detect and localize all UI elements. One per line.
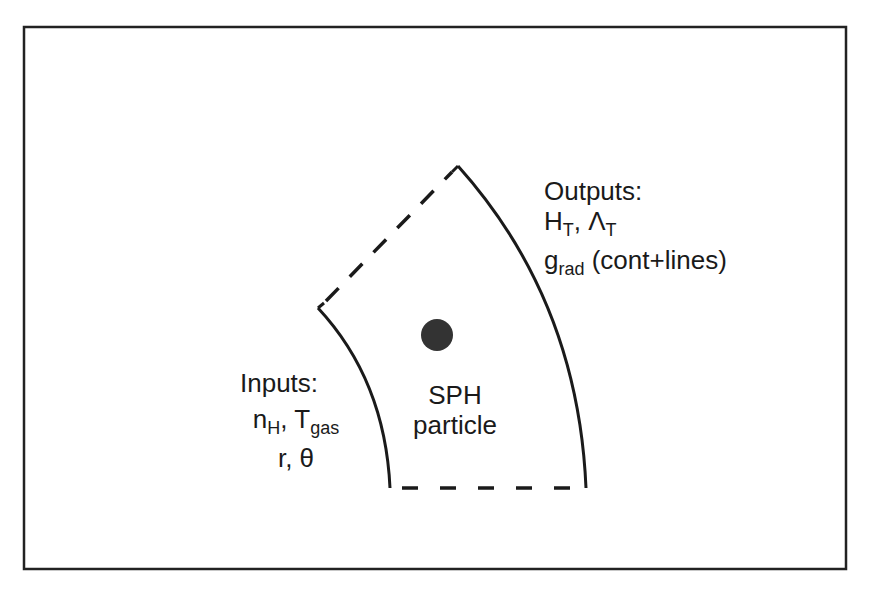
inputs-label: Inputs: nH, Tgas r, θ [236, 368, 356, 473]
diagram-canvas [0, 0, 870, 592]
inputs-title: Inputs: [240, 368, 356, 398]
wedge-corner-tick-top-left [318, 303, 324, 308]
inputs-line-density-temperature: nH, Tgas [236, 404, 356, 443]
sph-particle-dot [421, 319, 453, 351]
wedge-dashed-top-edge [326, 172, 452, 301]
outer-frame [24, 27, 846, 569]
outputs-label: Outputs: HT, ΛT grad (cont+lines) [544, 176, 727, 284]
outputs-line-heating-cooling: HT, ΛT [544, 206, 727, 245]
wedge-corner-tick-top-right [452, 166, 458, 172]
outputs-line-radiation-force: grad (cont+lines) [544, 245, 727, 284]
sph-particle-label: SPH particle [400, 380, 510, 440]
outputs-title: Outputs: [544, 176, 727, 206]
inputs-line-position: r, θ [236, 443, 356, 473]
